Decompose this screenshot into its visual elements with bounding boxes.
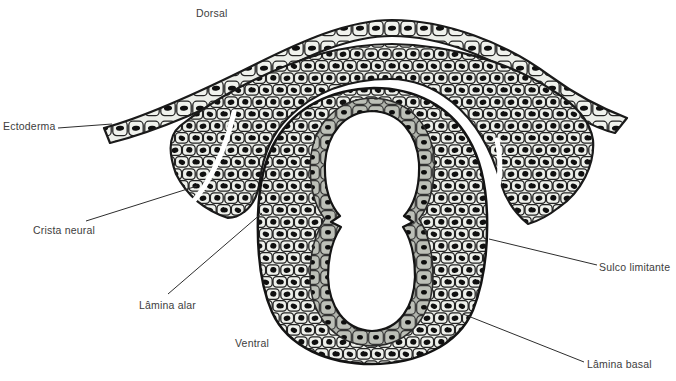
neural-canal-lumen <box>325 111 419 331</box>
label-lamina-alar: Lâmina alar <box>139 299 196 311</box>
lamina-basal-leader-line <box>463 314 584 362</box>
diagram-canvas <box>0 0 676 381</box>
lamina-alar-leader-line <box>168 213 262 294</box>
label-dorsal: Dorsal <box>196 7 228 19</box>
label-ectoderma: Ectoderma <box>3 120 56 132</box>
label-ventral: Ventral <box>235 337 269 349</box>
label-sulco-limitante: Sulco limitante <box>599 261 670 273</box>
label-lamina-basal: Lâmina basal <box>587 358 652 370</box>
label-crista-neural: Crista neural <box>33 224 95 236</box>
sulco-limitante-leader-line <box>489 239 597 265</box>
neural-tube-diagram: Dorsal Ectoderma Crista neural Lâmina al… <box>0 0 676 381</box>
crista-neural-leader-line <box>86 186 197 221</box>
